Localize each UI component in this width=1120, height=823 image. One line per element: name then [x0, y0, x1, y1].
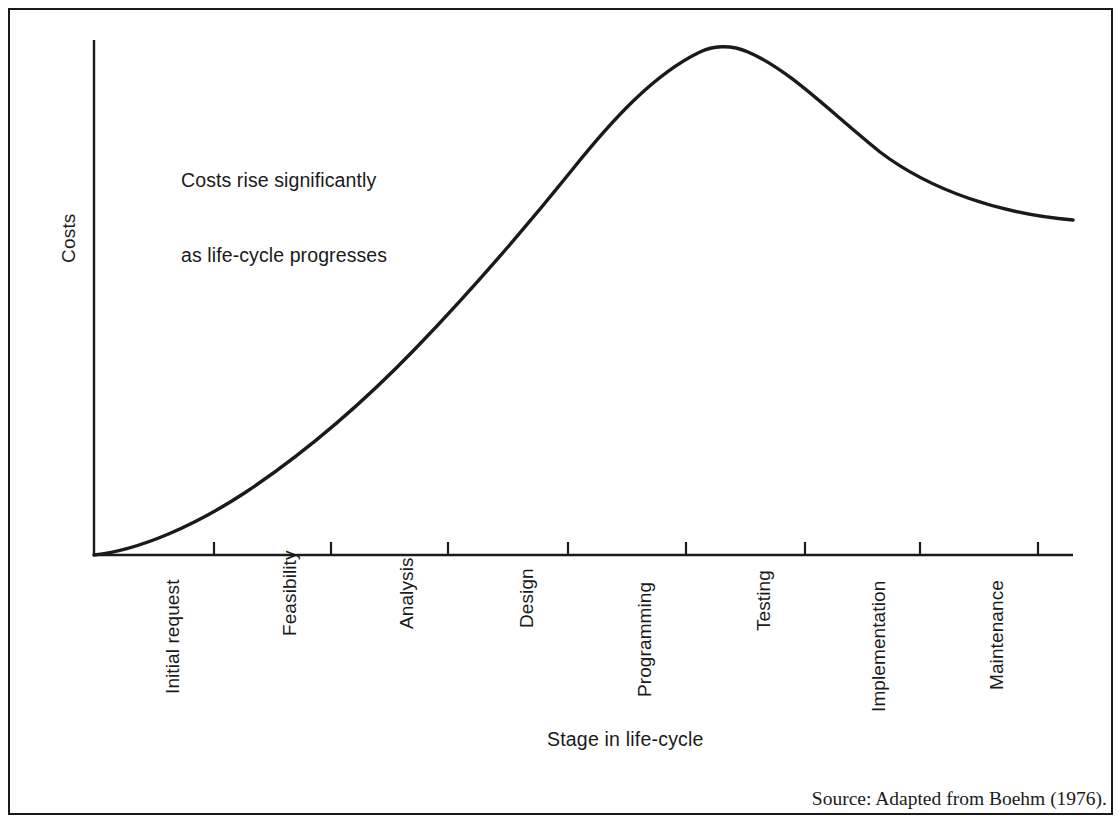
x-axis-title: Stage in life-cycle [547, 728, 704, 751]
chart-plot-area [0, 0, 1120, 823]
y-axis-title: Costs [58, 213, 80, 263]
x-tick-label-implementation: Implementation [868, 581, 890, 712]
x-axis-ticks [214, 542, 1038, 555]
annotation-line-1: Costs rise significantly [181, 168, 387, 193]
x-tick-label-programming: Programming [634, 582, 656, 697]
x-tick-label-initial-request: Initial request [162, 579, 184, 694]
x-tick-label-analysis: Analysis [396, 557, 418, 629]
x-tick-label-feasibility: Feasibility [279, 550, 301, 636]
x-tick-label-testing: Testing [753, 570, 775, 631]
source-note: Source: Adapted from Boehm (1976). [812, 788, 1107, 810]
annotation-line-2: as life-cycle progresses [181, 243, 387, 268]
x-tick-label-design: Design [516, 568, 538, 628]
x-tick-label-maintenance: Maintenance [986, 580, 1008, 690]
figure-canvas: Costs rise significantly as life-cycle p… [0, 0, 1120, 823]
chart-annotation: Costs rise significantly as life-cycle p… [181, 118, 387, 318]
